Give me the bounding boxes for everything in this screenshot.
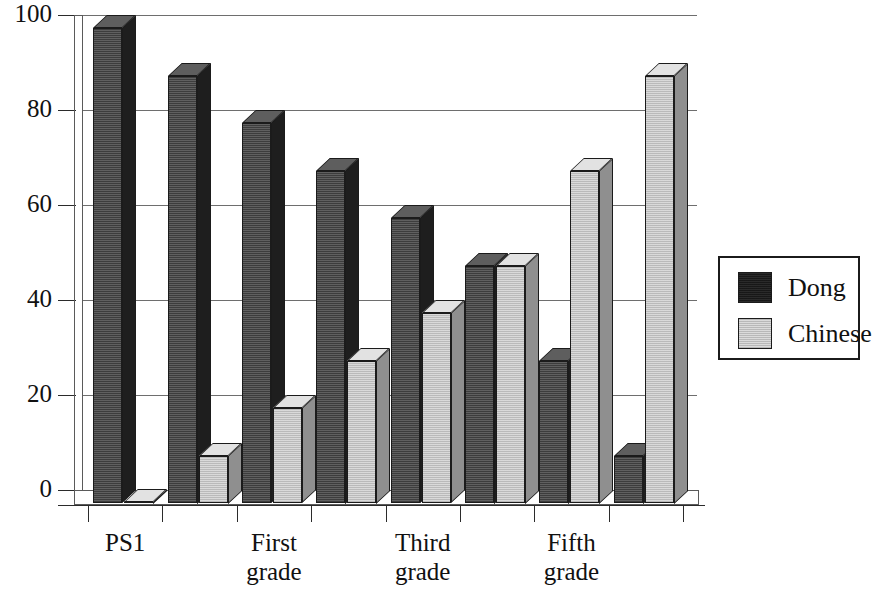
bar-chinese xyxy=(422,313,451,503)
y-axis-label: 80 xyxy=(0,96,52,121)
bar-side-face xyxy=(376,347,390,503)
bar-side-face xyxy=(197,62,211,503)
bar-chinese xyxy=(273,408,302,503)
bar-front-face xyxy=(539,361,568,504)
chart-legend: Dong Chinese xyxy=(718,256,860,360)
legend-label-dong: Dong xyxy=(788,275,846,301)
x-axis-tick xyxy=(237,505,238,522)
gridline xyxy=(82,15,697,16)
legend-item-chinese: Chinese xyxy=(738,318,872,349)
y-axis-label: 40 xyxy=(0,286,52,311)
bar-front-face xyxy=(614,456,643,504)
x-axis-tick xyxy=(88,505,89,522)
legend-label-chinese: Chinese xyxy=(788,321,872,347)
bar-front-face xyxy=(316,171,345,504)
bar-side-face xyxy=(674,62,688,503)
x-axis-tick xyxy=(162,505,163,522)
bar-side-face xyxy=(599,157,613,503)
bar-dong xyxy=(93,28,122,503)
bar-side-face xyxy=(302,395,316,503)
plot-wall-edge xyxy=(82,15,83,503)
bar-front-face xyxy=(570,171,599,504)
y-axis-label: 100 xyxy=(0,1,52,26)
plot-wall-edge xyxy=(74,15,75,503)
x-axis-group-label: Fifth grade xyxy=(508,528,634,586)
bar-dong xyxy=(316,171,345,504)
bar-side-face xyxy=(451,300,465,503)
bar-chinese xyxy=(496,266,525,504)
x-axis-tick xyxy=(609,505,610,522)
bar-dong xyxy=(168,76,197,504)
bar-front-face xyxy=(422,313,451,503)
bar-chinese xyxy=(199,456,228,504)
y-axis-label: 60 xyxy=(0,191,52,216)
x-axis-group-label: PS1 xyxy=(62,528,188,557)
bar-front-face xyxy=(273,408,302,503)
bar-front-face xyxy=(496,266,525,504)
bar-chinese xyxy=(124,502,153,504)
bar-dong xyxy=(242,123,271,503)
bar-side-face xyxy=(122,15,136,503)
bar-dong xyxy=(391,218,420,503)
bar-front-face xyxy=(242,123,271,503)
bar-front-face xyxy=(168,76,197,504)
x-axis-group-label: Third grade xyxy=(359,528,485,586)
bar-chinese xyxy=(347,361,376,504)
legend-item-dong: Dong xyxy=(738,272,846,303)
bar-dong xyxy=(539,361,568,504)
light-swatch-icon xyxy=(738,318,772,349)
bar-front-face xyxy=(465,266,494,504)
x-axis-tick xyxy=(683,505,684,522)
x-axis-tick xyxy=(386,505,387,522)
bar-front-face xyxy=(199,456,228,504)
chart-figure: 100806040200PS1First gradeThird gradeFif… xyxy=(0,0,886,599)
y-axis-label: 20 xyxy=(0,381,52,406)
x-axis-tick xyxy=(534,505,535,522)
bar-chinese xyxy=(570,171,599,504)
dark-swatch-icon xyxy=(738,272,772,303)
bar-dong xyxy=(614,456,643,504)
x-axis-tick xyxy=(311,505,312,522)
bar-front-face xyxy=(391,218,420,503)
bar-chinese xyxy=(645,76,674,504)
plot-wall-connector xyxy=(74,15,82,16)
bar-front-face xyxy=(93,28,122,503)
x-axis-group-label: First grade xyxy=(211,528,337,586)
bar-front-face xyxy=(645,76,674,504)
y-axis-label: 0 xyxy=(0,476,52,501)
bar-side-face xyxy=(525,252,539,503)
x-axis-tick xyxy=(460,505,461,522)
bar-dong xyxy=(465,266,494,504)
bar-front-face xyxy=(347,361,376,504)
